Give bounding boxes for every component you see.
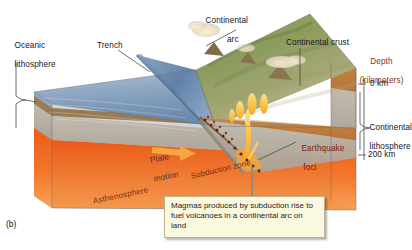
- label-oceanic-lithosphere: Oceanic lithosphere: [5, 31, 56, 79]
- left-face-cross-section: [34, 92, 52, 208]
- label-continental-crust: Continental crust: [286, 38, 349, 48]
- caption-callout: Magmas produced by subduction rise to fu…: [164, 196, 325, 238]
- label-earthquake-foci: Earthquake foci: [292, 134, 344, 182]
- label-trench: Trench: [97, 41, 123, 51]
- panel-label: (b): [6, 219, 16, 229]
- label-continental-lithosphere: Continental lithosphere: [360, 113, 412, 161]
- label-depth-tick-0: 0 km: [370, 79, 388, 89]
- label-continental-arc: Continental arc: [196, 6, 248, 54]
